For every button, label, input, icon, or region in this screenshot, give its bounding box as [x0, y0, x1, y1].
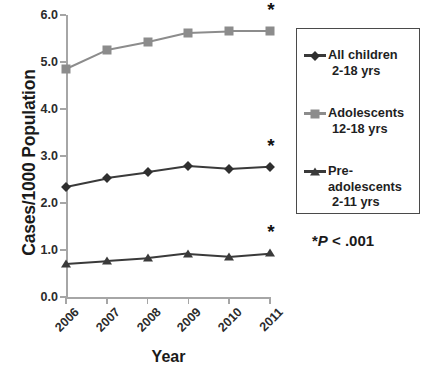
- legend-item[interactable]: Pre-adolescents2-11 yrs: [304, 163, 416, 210]
- legend-label: Pre-adolescents2-11 yrs: [328, 163, 416, 210]
- y-axis-tick-label-text: 3.0: [24, 149, 58, 163]
- legend-marker-symbol: [310, 51, 320, 61]
- legend-marker: [304, 112, 326, 115]
- x-axis-tick-label: 2009: [166, 305, 204, 343]
- legend-marker: [304, 170, 326, 173]
- legend: All children2-18 yrsAdolescents12-18 yrs…: [296, 28, 420, 214]
- x-axis-tick-label: 2011: [248, 305, 286, 343]
- data-point-marker: [183, 249, 193, 257]
- data-point-marker: [143, 254, 153, 262]
- y-axis-tick-label: 1.0: [20, 243, 58, 257]
- y-axis-tick-label: 4.0: [20, 102, 58, 116]
- data-point-marker: [225, 27, 234, 36]
- significance-asterisk: *: [267, 0, 274, 19]
- legend-marker-symbol: [311, 109, 320, 118]
- data-point-marker: [265, 249, 275, 257]
- y-axis-tick-label: 0.0: [20, 290, 58, 304]
- y-axis-tick-label: 2.0: [20, 196, 58, 210]
- x-axis-tick: [106, 297, 108, 304]
- significance-asterisk: *: [267, 222, 274, 241]
- data-point-marker: [184, 28, 193, 37]
- footnote-statistic: P: [318, 232, 328, 249]
- legend-label-name: Adolescents: [328, 105, 404, 120]
- x-axis-tick: [147, 297, 149, 304]
- chart-figure: Cases/1000 Population 0.01.02.03.04.05.0…: [0, 0, 427, 375]
- y-axis-tick-label-text: 2.0: [24, 196, 58, 210]
- x-axis-title: Year: [66, 348, 271, 366]
- significance-asterisk: *: [267, 135, 274, 154]
- legend-label-name: All children: [328, 47, 398, 62]
- legend-marker: [304, 54, 326, 57]
- data-point-marker: [102, 46, 111, 55]
- x-axis-tick: [228, 297, 230, 304]
- x-axis-tick-label: 2008: [125, 305, 163, 343]
- legend-label: All children2-18 yrs: [328, 47, 416, 78]
- data-point-marker: [61, 260, 71, 268]
- significance-footnote: *P < .001: [312, 232, 374, 249]
- legend-item[interactable]: All children2-18 yrs: [304, 47, 416, 78]
- x-axis-tick: [269, 297, 271, 304]
- y-axis-tick-label: 6.0: [20, 8, 58, 22]
- x-axis-tick: [65, 297, 67, 304]
- data-point-marker: [266, 27, 275, 36]
- data-point-marker: [62, 65, 71, 74]
- data-point-marker: [224, 252, 234, 260]
- legend-label-name: Pre-adolescents: [328, 163, 402, 194]
- legend-label: Adolescents12-18 yrs: [328, 105, 416, 136]
- legend-label-sublabel: 2-11 yrs: [332, 194, 416, 210]
- x-axis-tick: [188, 297, 190, 304]
- y-axis-tick-label-text: 5.0: [24, 55, 58, 69]
- y-axis-tick-label: 5.0: [20, 55, 58, 69]
- legend-marker-symbol: [310, 167, 320, 175]
- x-axis-tick-label: 2007: [85, 305, 123, 343]
- legend-label-sublabel: 12-18 yrs: [332, 121, 416, 137]
- x-axis-tick-label: 2006: [44, 305, 82, 343]
- y-axis-tick-label-text: 6.0: [24, 8, 58, 22]
- y-axis-tick-label: 3.0: [20, 149, 58, 163]
- legend-item[interactable]: Adolescents12-18 yrs: [304, 105, 416, 136]
- y-axis-tick-label-text: 0.0: [24, 290, 58, 304]
- legend-label-sublabel: 2-18 yrs: [332, 63, 416, 79]
- data-point-marker: [143, 38, 152, 47]
- data-point-marker: [102, 257, 112, 265]
- x-axis-tick-label: 2010: [207, 305, 245, 343]
- y-axis-tick-label-text: 1.0: [24, 243, 58, 257]
- y-axis-tick-label-text: 4.0: [24, 102, 58, 116]
- x-axis-line: [66, 297, 271, 299]
- footnote-value: < .001: [328, 232, 374, 249]
- series-line-segment: [229, 30, 270, 32]
